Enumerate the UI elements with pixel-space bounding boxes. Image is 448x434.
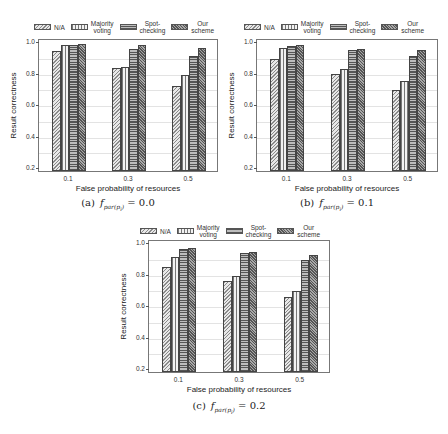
bar-na — [162, 267, 171, 372]
y-tick-mark — [146, 306, 149, 307]
bar-mv — [232, 276, 241, 372]
legend-swatch — [226, 228, 243, 234]
legend-swatch — [177, 228, 194, 234]
x-tick-label: 0.5 — [290, 376, 310, 383]
legend-label: Majority voting — [197, 224, 220, 238]
bar-mv — [292, 291, 301, 372]
bar-sc — [240, 253, 249, 372]
bar-os — [249, 252, 258, 372]
legend-item: Spot- checking — [226, 224, 272, 238]
x-tick-label: 0.1 — [168, 376, 188, 383]
legend-item: Our scheme — [277, 224, 320, 238]
legend-item: N/A — [140, 228, 171, 235]
y-tick-mark — [146, 275, 149, 276]
bar-na — [284, 297, 293, 372]
legend-label: N/A — [160, 228, 171, 235]
legend-item: Majority voting — [177, 224, 220, 238]
caption-value: 0.2 — [250, 400, 266, 411]
legend-label: Spot- checking — [246, 224, 272, 238]
chart-legend: N/AMajority votingSpot- checkingOur sche… — [140, 224, 326, 238]
bar-os — [309, 255, 318, 372]
legend-swatch — [277, 228, 294, 234]
y-tick-mark — [146, 338, 149, 339]
bar-mv — [171, 257, 180, 372]
bar-sc — [179, 249, 188, 372]
caption-formula: fpar(pi) — [211, 400, 235, 411]
bar-os — [188, 248, 197, 372]
legend-label: Our scheme — [297, 224, 320, 238]
bar-na — [223, 281, 232, 372]
figure-caption: (c) fpar(pi) = 0.2 — [128, 400, 330, 415]
y-tick-mark — [146, 369, 149, 370]
y-axis-label: Result correctness — [119, 256, 128, 356]
y-tick-label: 0.2 — [131, 365, 145, 372]
y-tick-label: 0.4 — [131, 334, 145, 341]
x-tick-label: 0.3 — [229, 376, 249, 383]
legend-swatch — [140, 228, 157, 234]
y-tick-label: 1.0 — [131, 239, 145, 246]
y-tick-mark — [146, 243, 149, 244]
x-axis-label: False probability of resources — [148, 385, 330, 394]
y-tick-label: 0.6 — [131, 302, 145, 309]
bar-sc — [301, 260, 310, 372]
chart-panel-c: N/AMajority votingSpot- checkingOur sche… — [0, 0, 448, 434]
caption-label: (c) — [192, 400, 205, 411]
plot-area — [148, 240, 330, 373]
y-tick-label: 0.8 — [131, 271, 145, 278]
